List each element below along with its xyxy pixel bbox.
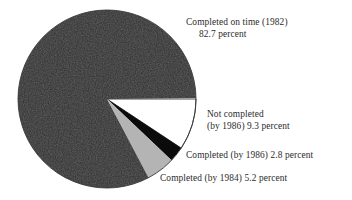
slice-label-not-completed-line1: Not completed bbox=[207, 109, 264, 119]
slice-label-completed-1984-line1: Completed (by 1984) 5.2 percent bbox=[160, 173, 287, 183]
slice-label-not-completed: Not completed (by 1986) 9.3 percent bbox=[207, 109, 290, 132]
pie-chart-figure: Completed on time (1982) 82.7 percent No… bbox=[0, 0, 352, 200]
slice-label-completed-1986: Completed (by 1986) 2.8 percent bbox=[186, 150, 313, 162]
slice-label-on-time-line2: 82.7 percent bbox=[199, 29, 288, 41]
slice-label-completed-1984: Completed (by 1984) 5.2 percent bbox=[160, 173, 287, 185]
slice-label-completed-1986-line1: Completed (by 1986) 2.8 percent bbox=[186, 150, 313, 160]
pie-chart-svg bbox=[0, 0, 352, 200]
slice-label-not-completed-line2: (by 1986) 9.3 percent bbox=[207, 121, 290, 133]
slice-label-on-time-line1: Completed on time (1982) bbox=[186, 17, 288, 27]
slice-label-completed-on-time: Completed on time (1982) 82.7 percent bbox=[186, 17, 288, 40]
